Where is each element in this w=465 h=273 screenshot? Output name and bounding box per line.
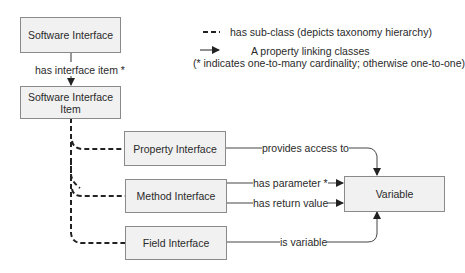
- node-label: Property Interface: [133, 143, 216, 155]
- edge-label-has-return-value: has return value: [253, 197, 328, 209]
- node-variable: Variable: [344, 176, 445, 212]
- legend-cardinality-text: (* indicates one-to-many cardinality; ot…: [193, 57, 465, 69]
- legend-property-text: A property linking classes: [251, 45, 369, 57]
- node-software-interface-item: Software Interface Item: [20, 86, 121, 119]
- node-label: Method Interface: [137, 190, 216, 202]
- edge-label-is-variable: is variable: [280, 236, 327, 248]
- edge-label-has-parameter: has parameter *: [253, 177, 328, 189]
- node-property-interface: Property Interface: [124, 131, 226, 166]
- node-label: Field Interface: [143, 237, 210, 249]
- edge-label-has-interface-item: has interface item *: [35, 64, 125, 76]
- node-label: Software Interface: [28, 29, 113, 41]
- node-label: Variable: [376, 188, 414, 200]
- node-label: Software Interface Item: [28, 91, 113, 115]
- node-software-interface: Software Interface: [20, 17, 121, 53]
- legend-subclass-text: has sub-class (depicts taxonomy hierarch…: [230, 26, 432, 38]
- node-field-interface: Field Interface: [125, 226, 227, 260]
- node-method-interface: Method Interface: [125, 179, 227, 213]
- edge-label-provides-access-to: provides access to: [262, 142, 349, 154]
